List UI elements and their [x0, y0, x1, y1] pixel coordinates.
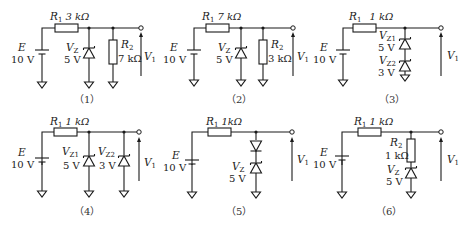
- ground-icon: [401, 73, 410, 81]
- ground-icon: [339, 78, 348, 86]
- zener-diode-1-icon: [84, 154, 95, 166]
- battery-icon: [336, 50, 350, 54]
- output-terminal-icon: [439, 130, 443, 134]
- r1-label: R13 kΩ: [49, 10, 89, 24]
- caption: （1）: [74, 94, 100, 105]
- r2-value: 7 kΩ: [118, 53, 142, 64]
- ground-icon: [237, 78, 246, 86]
- output-terminal-icon: [137, 130, 141, 134]
- circuit-2: R17 kΩ E 10 V VZ 5 V R2 3 kΩ V1 （2）: [163, 10, 309, 105]
- zener-value: 5 V: [64, 54, 82, 65]
- voltage-arrow-icon: [290, 137, 294, 142]
- zener-label: VZ: [232, 160, 245, 174]
- zener-1-value: 5 V: [378, 42, 396, 53]
- circuit-1: R13 kΩ E 10 V VZ 5 V R2 7 kΩ V1 （1）: [11, 10, 156, 105]
- zener-2-label: VZ2: [98, 145, 115, 159]
- r1-label: R11 kΩ: [49, 115, 89, 129]
- resistor-r1-icon: [206, 24, 229, 32]
- zener-diode-icon: [236, 46, 247, 58]
- caption: （6）: [376, 206, 402, 217]
- zener-1-value: 5 V: [63, 160, 81, 171]
- r2-value: 3 kΩ: [268, 53, 292, 64]
- ground-icon: [85, 189, 94, 197]
- resistor-r1-icon: [208, 128, 231, 136]
- e-value: 10 V: [11, 54, 35, 65]
- e-label: E: [17, 41, 26, 53]
- resistor-r1-icon: [358, 128, 381, 136]
- output-terminal-icon: [439, 26, 443, 30]
- ground-icon: [38, 80, 47, 88]
- e-label: E: [17, 146, 26, 158]
- vout-label: V1: [447, 49, 459, 63]
- r2-label: R2: [270, 38, 283, 52]
- e-value: 10 V: [313, 54, 337, 65]
- battery-icon: [187, 50, 201, 54]
- zener-diode-icon: [251, 161, 262, 173]
- vout-label: V1: [297, 153, 309, 167]
- ground-icon: [407, 190, 416, 198]
- output-terminal-icon: [290, 130, 294, 134]
- zener-value: 5 V: [216, 54, 234, 65]
- output-terminal-icon: [291, 26, 295, 30]
- r1-label: R17 kΩ: [201, 10, 241, 24]
- ground-icon: [85, 80, 94, 88]
- zener-1-label: VZ1: [379, 29, 396, 43]
- voltage-arrow-icon: [291, 32, 295, 37]
- zener-1-label: VZ1: [62, 145, 79, 159]
- resistor-r1-icon: [353, 24, 376, 32]
- resistor-r2-icon: [109, 40, 117, 64]
- circuit-4: R11 kΩ E 10 V VZ1 5 V VZ2 3 V V1 （4）: [11, 115, 156, 217]
- r1-label: R11 kΩ: [348, 10, 393, 24]
- circuit-6: R11 kΩ E 10 V R2 1 kΩ VZ 5 V V1 （6）: [313, 115, 459, 217]
- diode-icon: [251, 141, 262, 151]
- voltage-arrow-icon: [139, 32, 143, 37]
- r2-label: R2: [389, 136, 402, 150]
- vout-label: V1: [144, 156, 156, 170]
- zener-2-label: VZ2: [379, 54, 396, 68]
- zener-value: 5 V: [386, 176, 404, 187]
- voltage-arrow-icon: [439, 32, 443, 37]
- r2-label: R2: [120, 38, 133, 52]
- resistor-r2-icon: [259, 40, 267, 64]
- circuit-5: R11kΩ E 10 V VZ 5 V V1 （5）: [163, 115, 309, 217]
- r1-label: R11kΩ: [205, 115, 242, 129]
- zener-2-value: 3 V: [378, 67, 396, 78]
- zener-value: 5 V: [229, 173, 247, 184]
- e-value: 10 V: [163, 54, 187, 65]
- r1-label: R11 kΩ: [353, 115, 393, 129]
- zener-2-value: 3 V: [99, 160, 117, 171]
- voltage-arrow-icon: [137, 137, 141, 142]
- e-value: 10 V: [11, 159, 35, 170]
- circuit-3: R11 kΩ E 10 V VZ1 5 V VZ2 3 V V1 （3）: [313, 10, 459, 105]
- ground-icon: [188, 190, 197, 198]
- voltage-arrow-icon: [439, 137, 443, 142]
- output-terminal-icon: [139, 26, 143, 30]
- zener-diode-icon: [406, 166, 417, 178]
- circuit-diagram-sheet: R13 kΩ E 10 V VZ 5 V R2 7 kΩ V1 （1） R17 …: [0, 0, 468, 235]
- e-label: E: [171, 149, 180, 161]
- e-value: 10 V: [163, 162, 187, 173]
- ground-icon: [338, 190, 347, 198]
- zener-label: VZ: [66, 41, 79, 55]
- vout-label: V1: [297, 50, 309, 64]
- caption: （5）: [226, 206, 252, 217]
- vout-label: V1: [144, 50, 156, 64]
- resistor-r1-icon: [55, 24, 78, 32]
- battery-icon: [35, 50, 49, 54]
- ground-icon: [109, 80, 118, 88]
- e-label: E: [319, 146, 328, 158]
- e-label: E: [319, 41, 328, 53]
- resistor-r1-icon: [54, 128, 77, 136]
- zener-label: VZ: [387, 163, 400, 177]
- e-value: 10 V: [313, 159, 337, 170]
- ground-icon: [259, 78, 268, 86]
- zener-label: VZ: [218, 41, 231, 55]
- caption: （4）: [74, 206, 100, 217]
- ground-icon: [252, 190, 261, 198]
- zener-diode-2-icon: [119, 154, 130, 166]
- ground-icon: [190, 78, 199, 86]
- ground-icon: [38, 189, 47, 197]
- zener-diode-2-icon: [400, 59, 411, 71]
- zener-diode-icon: [84, 46, 95, 58]
- zener-diode-1-icon: [400, 37, 411, 49]
